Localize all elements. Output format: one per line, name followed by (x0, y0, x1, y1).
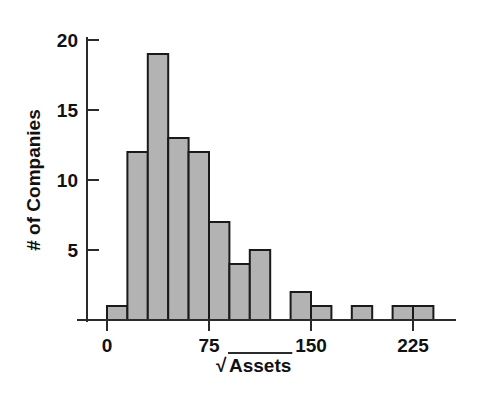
histogram-bar (311, 306, 331, 320)
histogram-bar (393, 306, 413, 320)
y-axis-tick-label: 5 (67, 240, 78, 261)
histogram-bar (209, 222, 229, 320)
histogram-chart: 5101520 075150225 # of Companies √ Asset… (0, 0, 486, 403)
histogram-bar (352, 306, 372, 320)
histogram-bar (127, 152, 147, 320)
y-axis-title: # of Companies (23, 109, 44, 250)
histogram-bar (229, 264, 249, 320)
y-axis-tick-label: 20 (57, 30, 78, 51)
histogram-bar (148, 54, 168, 320)
histogram-bar (189, 152, 209, 320)
radical-icon: √ (216, 355, 227, 376)
x-axis-title-text: Assets (229, 355, 291, 376)
histogram-bar (168, 138, 188, 320)
y-axis-tick-label: 10 (57, 170, 78, 191)
histogram-bar (107, 306, 127, 320)
histogram-bar (291, 292, 311, 320)
histogram-bar (413, 306, 433, 320)
x-axis-tick-label: 0 (102, 335, 113, 356)
histogram-figure: 5101520 075150225 # of Companies √ Asset… (0, 0, 486, 403)
x-axis-tick-label: 75 (198, 335, 220, 356)
x-axis-tick-label: 150 (295, 335, 327, 356)
x-axis-tick-label: 225 (397, 335, 429, 356)
histogram-bar (250, 250, 270, 320)
y-axis-tick-label: 15 (57, 100, 79, 121)
